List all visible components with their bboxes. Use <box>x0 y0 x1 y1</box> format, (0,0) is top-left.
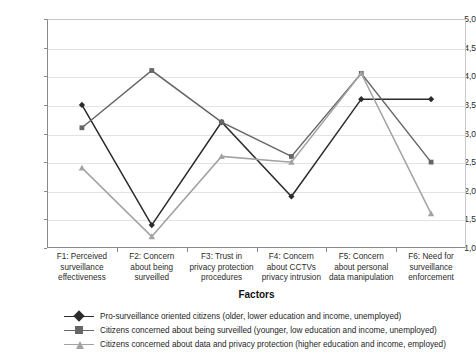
data-point-marker <box>428 96 434 102</box>
series-line <box>82 99 431 225</box>
x-axis-tick-labels: F1: PerceivedsurveillanceeffectivenessF2… <box>47 252 466 290</box>
data-point-marker <box>79 102 85 108</box>
legend-label: Citizens concerned about being surveille… <box>100 326 437 335</box>
legend-item: Citizens concerned about being surveille… <box>64 323 464 337</box>
x-axis-tick-label: F5: Concernabout personaldata manipulati… <box>326 252 396 290</box>
x-axis-tick-label: F6: Need forsurveillanceenforcement <box>396 252 466 290</box>
y-axis-tick-mark <box>44 248 47 249</box>
data-point-marker <box>79 165 85 171</box>
series-lines <box>47 19 466 248</box>
legend: Pro-surveillance oriented citizens (olde… <box>64 309 464 351</box>
series-line <box>82 73 431 236</box>
data-point-marker <box>80 125 85 130</box>
legend-triangle-icon <box>64 338 94 350</box>
data-point-marker <box>149 68 154 73</box>
legend-label: Pro-surveillance oriented citizens (olde… <box>100 312 401 321</box>
legend-item: Pro-surveillance oriented citizens (olde… <box>64 309 464 323</box>
legend-item: Citizens concerned about data and privac… <box>64 337 464 351</box>
x-axis-title: Factors <box>47 289 466 300</box>
data-point-marker <box>289 154 294 159</box>
x-axis-tick-label: F1: Perceivedsurveillanceeffectiveness <box>47 252 117 290</box>
series-line <box>82 71 431 163</box>
data-point-marker <box>429 160 434 165</box>
x-axis-tick-label: F2: Concernabout beingsurveilled <box>117 252 187 290</box>
legend-diamond-icon <box>64 310 94 322</box>
x-axis-tick-label: F3: Trust inprivacy protectionprocedures <box>187 252 257 290</box>
data-point-marker <box>428 210 434 216</box>
legend-label: Citizens concerned about data and privac… <box>100 340 446 349</box>
x-axis-tick-label: F4: Concernabout CCTVsprivacy intrusion <box>256 252 326 290</box>
line-chart: Mean values 5,04,54,03,53,02,52,01,51,0 … <box>0 0 476 357</box>
data-point-marker <box>219 120 224 125</box>
legend-square-icon <box>64 324 94 336</box>
